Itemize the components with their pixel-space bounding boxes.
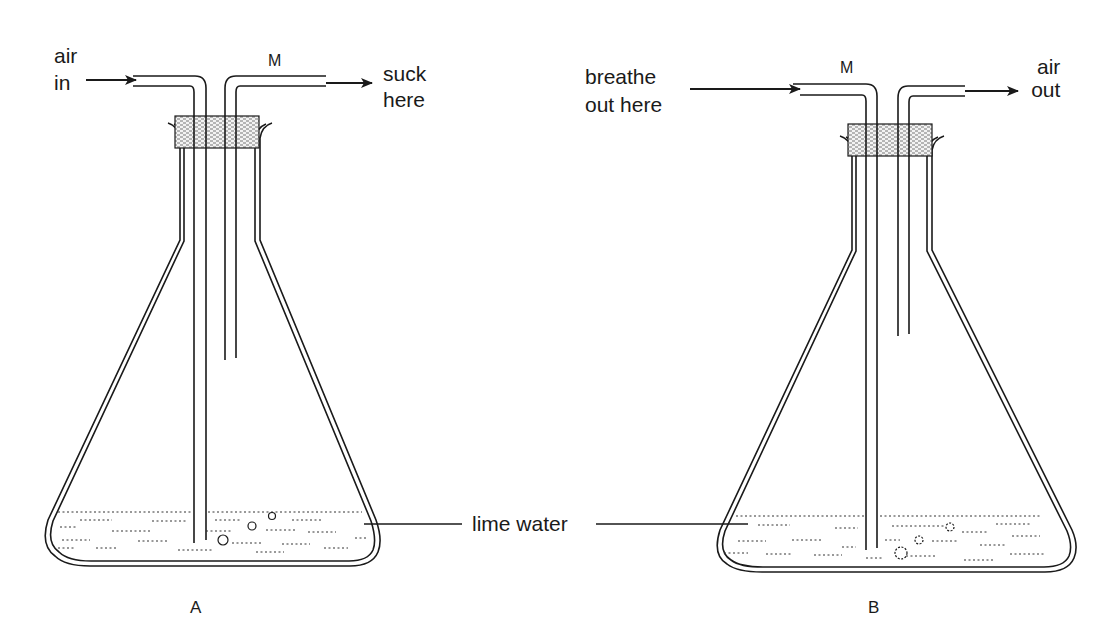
flask-a-inlet-label: air in — [54, 44, 77, 94]
lime-water-label: lime water — [472, 512, 568, 535]
flask-a-outlet-label: suck here — [383, 62, 426, 111]
flask-a-tube-label-m: M — [268, 49, 281, 72]
flask-b-outlet-label-line1: air — [1028, 55, 1060, 78]
flask-a-inlet-label-line1: air — [54, 44, 77, 67]
flask-b-bubbles — [895, 523, 954, 559]
flask-b-tube-label-m: M — [840, 56, 853, 79]
flask-b-inlet-label-line2: out here — [585, 93, 662, 116]
flask-b — [690, 84, 1076, 572]
flask-a-outlet-label-line2: here — [383, 88, 426, 111]
flask-b-caption: B — [868, 596, 879, 619]
flask-a — [45, 76, 380, 566]
flask-b-outlet-label-line2: out — [1028, 78, 1060, 101]
diagram-canvas — [0, 0, 1108, 634]
flask-a-lime-water — [58, 512, 368, 552]
flask-a-bubbles — [218, 513, 276, 546]
flask-b-inlet-label-line1: breathe — [585, 65, 662, 88]
flask-b-inlet-label: breathe out here — [585, 65, 662, 116]
flask-b-outer-wall — [717, 136, 1076, 572]
flask-b-outlet-label: air out — [1028, 55, 1060, 101]
flask-b-lime-water — [724, 516, 1046, 560]
flask-a-outer-wall — [45, 123, 380, 566]
flask-b-stopper — [848, 124, 932, 156]
flask-a-inner-wall — [51, 124, 375, 561]
flask-b-inner-wall — [723, 137, 1071, 567]
flask-a-stopper — [175, 116, 259, 148]
flask-a-outlet-label-line1: suck — [383, 62, 426, 85]
flask-a-inlet-label-line2: in — [54, 71, 77, 94]
flask-a-caption: A — [190, 596, 201, 619]
